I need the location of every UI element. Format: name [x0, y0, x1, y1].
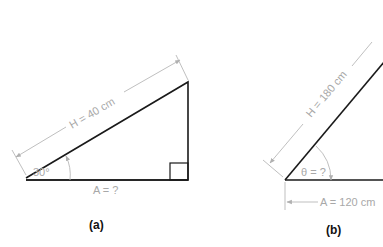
hypotenuse-label-a: H = 40 cm: [67, 95, 117, 131]
adjacent-label-b: A = 120 cm: [320, 196, 375, 208]
angle-label-b: θ = ?: [301, 166, 326, 178]
right-angle-marker: [170, 163, 188, 180]
figure-b: H = 180 cm θ = ? A = 120 cm (b): [263, 42, 383, 237]
caption-b: (b): [326, 223, 341, 237]
figure-a: H = 40 cm 30° A = ? (a): [12, 55, 188, 232]
caption-a: (a): [89, 218, 104, 232]
diagram-canvas: H = 40 cm 30° A = ? (a) H = 180 cm θ = ?…: [0, 0, 383, 247]
angle-label-a: 30°: [33, 166, 50, 178]
adjacent-label-a: A = ?: [93, 184, 118, 196]
angle-arc-a: [66, 156, 70, 180]
